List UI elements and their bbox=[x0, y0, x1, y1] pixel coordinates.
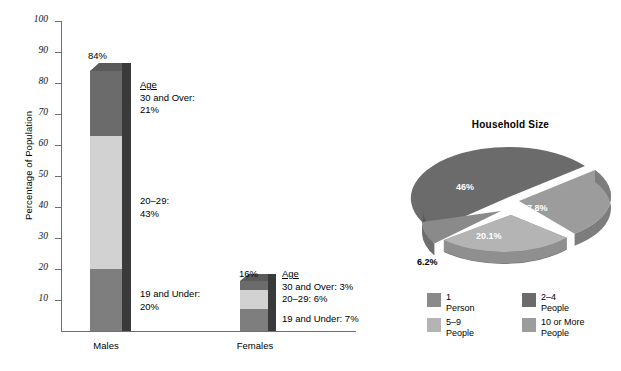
y-tick-label-60: 60 bbox=[12, 138, 48, 148]
y-tick-70: 70 bbox=[0, 114, 62, 115]
y-tick-label-40: 40 bbox=[12, 200, 48, 210]
callout-females-2029: 20–29: 6% bbox=[282, 293, 359, 306]
y-tick-label-50: 50 bbox=[12, 169, 48, 179]
legend-item-5-9-people[interactable]: 5–9 People bbox=[427, 317, 522, 338]
x-axis-line bbox=[61, 331, 356, 332]
callout-males-over30-line1: 30 and Over: bbox=[140, 92, 195, 105]
bar-females[interactable] bbox=[240, 281, 268, 331]
pie-legend: 1 Person 2–4 People 5–9 People 10 or Mor… bbox=[427, 292, 617, 342]
pie-label-1-person: 6.2% bbox=[417, 257, 438, 267]
callout-males-under19-line2: 20% bbox=[140, 301, 200, 314]
legend-swatch-10-or-more-people bbox=[522, 318, 536, 332]
y-tick-90: 90 bbox=[0, 52, 62, 53]
callout-males-age-header: Age bbox=[140, 79, 157, 92]
callout-males-2029-line1: 20–29: bbox=[140, 195, 169, 208]
legend-item-1-person[interactable]: 1 Person bbox=[427, 292, 522, 313]
bar-females-seg-over30 bbox=[240, 281, 268, 290]
y-tick-label-100: 100 bbox=[12, 14, 48, 24]
figure-panel: Percentage of Population 100 90 80 70 60… bbox=[0, 0, 621, 371]
y-tick-label-80: 80 bbox=[12, 76, 48, 86]
bar-males-top-face bbox=[90, 63, 122, 71]
y-tick-label-90: 90 bbox=[12, 45, 48, 55]
y-tick-label-30: 30 bbox=[12, 231, 48, 241]
callout-males-2029: 20–29: 43% bbox=[140, 195, 169, 220]
y-tick-40: 40 bbox=[0, 207, 62, 208]
pie-label-10-or-more-people: 27.8% bbox=[522, 203, 548, 213]
y-tick-10: 10 bbox=[0, 300, 62, 301]
callout-females-under19: 19 and Under: 7% bbox=[282, 313, 359, 326]
legend-label-1-person: 1 Person bbox=[446, 292, 475, 313]
legend-item-10-or-more-people[interactable]: 10 or More People bbox=[522, 317, 617, 338]
bar-males-seg-over30 bbox=[90, 71, 122, 136]
bar-males-seg-under19 bbox=[90, 269, 122, 331]
legend-swatch-2-4-people bbox=[522, 293, 536, 307]
pie-label-2-4-people: 46% bbox=[456, 182, 474, 192]
pie-label-5-9-people: 20.1% bbox=[476, 231, 502, 241]
legend-label-5-9-people: 5–9 People bbox=[446, 317, 474, 338]
bar-females-side-face bbox=[268, 274, 276, 331]
bar-males[interactable] bbox=[90, 71, 122, 331]
bar-males-total-label: 84% bbox=[88, 50, 107, 61]
pie-chart-title: Household Size bbox=[400, 119, 621, 130]
y-tick-20: 20 bbox=[0, 269, 62, 270]
y-tick-label-20: 20 bbox=[12, 262, 48, 272]
y-tick-80: 80 bbox=[0, 83, 62, 84]
y-tick-label-10: 10 bbox=[12, 293, 48, 303]
legend-label-10-or-more-people: 10 or More People bbox=[541, 317, 585, 338]
legend-swatch-5-9-people bbox=[427, 318, 441, 332]
bar-females-seg-2029 bbox=[240, 290, 268, 309]
legend-row-2: 5–9 People 10 or More People bbox=[427, 317, 617, 338]
callout-males-under19-line1: 19 and Under: bbox=[140, 288, 200, 301]
x-category-label-males: Males bbox=[70, 340, 142, 351]
legend-label-2-4-people: 2–4 People bbox=[541, 292, 569, 313]
callout-females-age-header: Age bbox=[282, 268, 299, 281]
y-tick-50: 50 bbox=[0, 176, 62, 177]
legend-item-2-4-people[interactable]: 2–4 People bbox=[522, 292, 617, 313]
callout-males-over30: Age 30 and Over: 21% bbox=[140, 79, 195, 117]
legend-swatch-1-person bbox=[427, 293, 441, 307]
y-tick-100: 100 bbox=[0, 21, 62, 22]
y-tick-60: 60 bbox=[0, 145, 62, 146]
bar-females-total-label: 16% bbox=[239, 268, 258, 279]
callout-females-over30: 30 and Over: 3% bbox=[282, 281, 359, 294]
legend-row-1: 1 Person 2–4 People bbox=[427, 292, 617, 313]
bar-females-seg-under19 bbox=[240, 309, 268, 331]
callout-males-under19: 19 and Under: 20% bbox=[140, 288, 200, 313]
bar-chart: Percentage of Population 100 90 80 70 60… bbox=[0, 0, 400, 371]
x-category-label-females: Females bbox=[216, 340, 294, 351]
bar-males-side-face bbox=[122, 63, 131, 331]
callout-males-2029-line2: 43% bbox=[140, 208, 169, 221]
bar-males-seg-2029 bbox=[90, 136, 122, 269]
pie-chart: Household Size bbox=[400, 0, 621, 371]
callout-females: Age 30 and Over: 3% 20–29: 6% 19 and Und… bbox=[282, 268, 359, 325]
y-tick-30: 30 bbox=[0, 238, 62, 239]
callout-males-over30-line2: 21% bbox=[140, 104, 195, 117]
y-tick-label-70: 70 bbox=[12, 107, 48, 117]
